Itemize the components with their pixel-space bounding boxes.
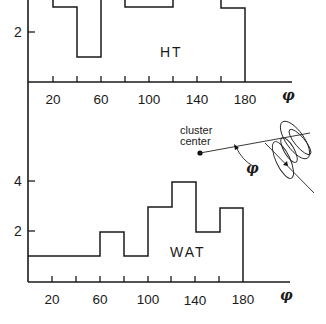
wat-x-label-20: 20 xyxy=(44,292,59,307)
ht-x-label-180: 180 xyxy=(234,92,257,107)
wat-x-label-180: 180 xyxy=(232,292,255,307)
wat-x-ticks xyxy=(52,276,219,282)
ht-x-label-60: 60 xyxy=(93,92,108,107)
ht-label: HT xyxy=(160,44,183,60)
wat-bars xyxy=(28,182,243,282)
ht-bars-right xyxy=(221,0,245,82)
wat-x-label-100: 100 xyxy=(137,292,160,307)
arc-arrowhead xyxy=(234,144,239,150)
galaxy-loop-3 xyxy=(278,135,301,164)
ht-x-label-140: 140 xyxy=(186,92,209,107)
wat-x-label-60: 60 xyxy=(92,292,107,307)
angle-phi-symbol: φ xyxy=(246,160,259,176)
ht-histogram: 2 HT 20 60 100 140 180 φ xyxy=(14,0,295,107)
wat-y-label-4: 4 xyxy=(14,173,22,189)
center-label: center xyxy=(180,135,211,147)
wat-label: WAT xyxy=(170,244,206,260)
wat-histogram: 4 2 WAT 20 60 100 140 180 φ xyxy=(14,173,293,308)
ht-x-label-20: 20 xyxy=(45,92,60,107)
ht-bars xyxy=(53,0,101,57)
figure: 2 HT 20 60 100 140 180 φ cluster center … xyxy=(0,0,326,324)
wat-y-label-2: 2 xyxy=(14,223,22,239)
radial-line xyxy=(200,133,310,153)
ht-x-label-100: 100 xyxy=(138,92,161,107)
galaxy-loop-2 xyxy=(268,139,298,181)
ht-x-ticks xyxy=(53,76,221,82)
cluster-inset: cluster center φ xyxy=(180,117,315,193)
ht-bars-mid xyxy=(125,0,173,7)
wat-phi-axis-symbol: φ xyxy=(280,287,293,303)
wat-x-label-140: 140 xyxy=(184,293,207,308)
ht-y-tick-label: 2 xyxy=(14,24,22,40)
ht-phi-axis-symbol: φ xyxy=(282,87,295,103)
